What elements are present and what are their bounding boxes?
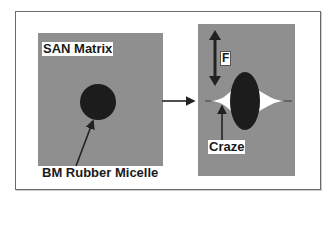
- bm-rubber-micelle-label: BM Rubber Micelle: [41, 166, 159, 180]
- force-label: F: [220, 51, 231, 66]
- san-matrix-label: SAN Matrix: [42, 42, 113, 56]
- craze-label: Craze: [208, 140, 245, 154]
